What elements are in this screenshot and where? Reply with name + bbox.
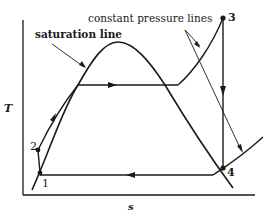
pump-line-1-2 — [38, 150, 40, 173]
arrow-evaporation — [108, 82, 117, 88]
point-1-marker — [38, 171, 43, 176]
saturation-line-pointer — [52, 44, 84, 67]
arrow-expansion — [220, 86, 226, 96]
ts-diagram: 1 2 3 4 saturation line constant pressur… — [0, 0, 278, 220]
point-3-marker — [220, 15, 225, 20]
point-4-marker — [220, 165, 225, 170]
y-axis-label: T — [4, 102, 13, 115]
saturation-line-label: saturation line — [35, 28, 122, 40]
point-2-label: 2 — [30, 140, 37, 153]
arrow-condensation — [126, 172, 135, 178]
axes — [23, 20, 255, 195]
constant-pressure-lines-label: constant pressure lines — [88, 12, 212, 24]
point-3-label: 3 — [228, 11, 236, 24]
x-axis-label: s — [128, 201, 134, 212]
saturation-pointer-arrowhead — [79, 61, 86, 68]
constant-pressure-line-high — [178, 18, 223, 85]
point-1-label: 1 — [42, 177, 49, 190]
point-4-label: 4 — [227, 166, 235, 179]
constant-pressure-lower-arrowhead — [237, 144, 243, 153]
saturation-dome — [32, 42, 233, 190]
